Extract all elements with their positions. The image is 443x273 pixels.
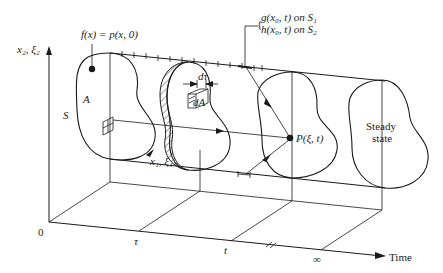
- floor-grid: [49, 53, 382, 250]
- time-tick-t: t: [224, 244, 228, 256]
- source-element-icon: [103, 117, 113, 135]
- initial-point-icon: [89, 66, 95, 72]
- steady-state-label-line1: Steady: [366, 120, 396, 132]
- point-p-label: P(ξ, t): [295, 132, 324, 145]
- brace-icon: {: [257, 18, 262, 30]
- vertical-axis-label: x₂, ξ₂: [16, 43, 40, 56]
- floor-back-line: [110, 182, 382, 210]
- d-tau-label: dτ: [198, 70, 209, 82]
- time-axis-label: Time: [389, 251, 412, 263]
- region-label: A: [82, 93, 90, 105]
- space-time-diagram: x₂, ξ₂ f(x) = p(x, 0) g(x₀, t) on S₁ h(x…: [0, 0, 443, 273]
- vertical-axis-arrow-icon: [46, 46, 52, 55]
- axes: [46, 46, 386, 259]
- depth-line-inf: [321, 210, 382, 250]
- origin-label: 0: [38, 226, 44, 238]
- time-axis: [49, 222, 382, 256]
- labels: x₂, ξ₂ f(x) = p(x, 0) g(x₀, t) on S₁ h(x…: [16, 11, 412, 265]
- domain-section-initial: [76, 53, 155, 160]
- domain-section-t: [258, 72, 338, 178]
- time-tick-tau: τ: [134, 235, 139, 247]
- depth-line-t: [231, 201, 292, 241]
- point-p-icon: [287, 135, 294, 142]
- boundary-h-label: h(x₀, t) on S₂: [261, 23, 317, 36]
- steady-state-label-line2: state: [372, 132, 392, 144]
- surface-label: S: [63, 109, 69, 121]
- time-tick-infinity: ∞: [313, 253, 321, 265]
- d-area-label: dA: [193, 96, 206, 108]
- depth-line-0: [49, 182, 110, 222]
- time-slice-hatched: [160, 62, 188, 170]
- depth-axis-label: x₁, ξ₁: [149, 155, 173, 168]
- depth-line-tau: [139, 191, 200, 231]
- ray-to-p: [113, 120, 289, 138]
- time-axis-arrow-icon: [375, 252, 386, 259]
- diagram-canvas: x₂, ξ₂ f(x) = p(x, 0) g(x₀, t) on S₁ h(x…: [0, 0, 443, 273]
- initial-condition-label: f(x) = p(x, 0): [81, 28, 138, 41]
- cylinder-edges: [110, 51, 385, 188]
